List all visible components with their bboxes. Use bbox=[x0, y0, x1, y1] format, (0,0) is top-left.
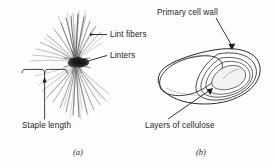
caption-panel-a: (a) bbox=[73, 147, 83, 157]
linters-leader bbox=[88, 56, 107, 62]
primary-cell-wall-leader bbox=[216, 18, 235, 50]
panel-a-seed-and-fibers bbox=[22, 10, 109, 120]
caption-panel-b: (b) bbox=[196, 147, 206, 157]
label-layers-of-cellulose: Layers of cellulose bbox=[145, 121, 215, 130]
cotton-fiber-figure bbox=[0, 0, 274, 167]
label-staple-length: Staple length bbox=[22, 121, 71, 130]
panel-b-fiber-structure bbox=[158, 18, 260, 119]
label-primary-cell-wall: Primary cell wall bbox=[157, 8, 218, 17]
label-linters: Linters bbox=[110, 51, 135, 60]
label-lint-fibers: Lint fibers bbox=[110, 30, 147, 39]
lint-fiber-tuft-upper bbox=[30, 10, 103, 62]
lint-fiber-tuft-lower bbox=[35, 64, 109, 120]
